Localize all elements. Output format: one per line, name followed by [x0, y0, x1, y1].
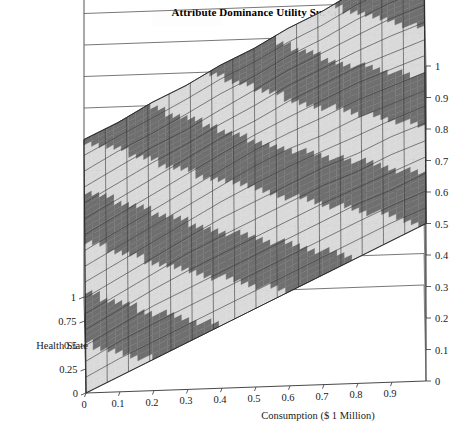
svg-text:0.4: 0.4	[213, 394, 227, 405]
x-axis-label: Consumption ($ 1 Million)	[261, 410, 375, 422]
svg-text:0.6: 0.6	[435, 187, 448, 198]
svg-text:0.1: 0.1	[111, 398, 124, 409]
svg-text:0.8: 0.8	[349, 389, 362, 400]
figure-caption	[0, 431, 474, 441]
svg-text:0: 0	[73, 388, 78, 399]
svg-text:0.9: 0.9	[383, 388, 396, 399]
svg-text:0.1: 0.1	[435, 345, 448, 356]
svg-text:0.2: 0.2	[435, 313, 448, 324]
svg-text:1: 1	[435, 61, 440, 72]
svg-text:0.75: 0.75	[58, 316, 76, 327]
svg-text:0.3: 0.3	[435, 282, 448, 293]
svg-text:0.2: 0.2	[145, 397, 158, 408]
svg-text:1: 1	[71, 292, 76, 303]
y-axis-label: Health State	[36, 340, 88, 351]
svg-text:0.7: 0.7	[315, 391, 328, 402]
svg-text:0.8: 0.8	[435, 124, 448, 135]
surface-plot-svg: 00.10.20.30.40.50.60.70.80.9 10.750.50.2…	[0, 0, 474, 441]
svg-text:0.5: 0.5	[247, 393, 260, 404]
svg-text:0.3: 0.3	[179, 395, 192, 406]
figure-container: Attribute Dominance Utility Surface 00.1…	[0, 0, 474, 441]
svg-text:0.25: 0.25	[59, 364, 77, 375]
svg-text:0.4: 0.4	[435, 250, 449, 261]
svg-text:0: 0	[81, 399, 86, 410]
svg-text:0.6: 0.6	[281, 392, 294, 403]
svg-text:0.7: 0.7	[435, 156, 448, 167]
z-axis-tick-labels: 00.10.20.30.40.50.60.70.80.91	[435, 61, 449, 387]
svg-text:0: 0	[435, 376, 440, 387]
svg-text:0.9: 0.9	[435, 93, 448, 104]
svg-text:0.5: 0.5	[435, 219, 448, 230]
